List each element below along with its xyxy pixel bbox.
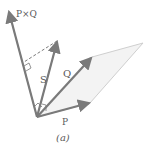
label-q: Q [63, 68, 71, 79]
label-s: S [40, 74, 47, 85]
cross-product-diagram: P×Q S Q P (a) [0, 0, 154, 147]
figure-caption: (a) [56, 132, 70, 143]
vector-p-cross-q [9, 12, 37, 117]
label-p-cross-q: P×Q [16, 9, 37, 19]
label-p: P [62, 117, 68, 127]
